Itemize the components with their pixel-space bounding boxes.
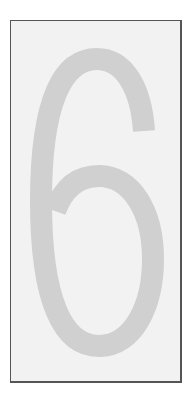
number-sign-panel: 6: [10, 20, 182, 383]
digit-six-glyph: 6: [11, 21, 180, 381]
